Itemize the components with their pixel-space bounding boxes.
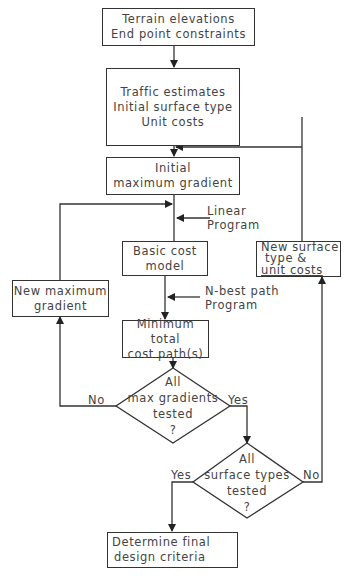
- arrow-gradients-yes: [230, 406, 247, 443]
- new-surface-box: New surface type & unit costs: [256, 241, 341, 277]
- basic-cost-line-2: model: [146, 259, 185, 274]
- initial-gradient-box: Initial maximum gradient: [106, 157, 240, 195]
- decision-surfaces-line-4: ?: [197, 499, 297, 515]
- min-cost-line-2: cost path(s): [128, 347, 204, 362]
- decision-gradients-line-1: All: [123, 374, 223, 390]
- linear-program-label: Linear Program: [207, 204, 260, 232]
- terrain-box: Terrain elevations End point constraints: [102, 8, 255, 46]
- traffic-line-3: Unit costs: [142, 115, 205, 130]
- decision-surfaces-line-1: All: [197, 451, 297, 467]
- decision-gradients-line-3: tested: [123, 406, 223, 422]
- terrain-line-1: Terrain elevations: [122, 12, 235, 27]
- basic-cost-line-1: Basic cost: [133, 244, 197, 259]
- initial-gradient-line-2: maximum gradient: [113, 176, 233, 191]
- linear-program-line-2: Program: [207, 218, 260, 232]
- new-gradient-box: New maximum gradient: [12, 280, 109, 317]
- traffic-line-1: Traffic estimates: [120, 85, 225, 100]
- initial-gradient-line-1: Initial: [155, 161, 191, 176]
- new-gradient-line-2: gradient: [34, 299, 87, 314]
- new-surface-line-3: unit costs: [261, 265, 323, 277]
- decision-surfaces-line-2: surface types: [197, 467, 297, 483]
- decision-surfaces-line-3: tested: [197, 483, 297, 499]
- final-box: Determine final design criteria: [107, 532, 238, 568]
- new-gradient-line-1: New maximum: [14, 284, 107, 299]
- traffic-box: Traffic estimates Initial surface type U…: [106, 68, 240, 146]
- gradients-no-label: No: [88, 393, 105, 407]
- basic-cost-box: Basic cost model: [122, 241, 208, 276]
- final-line-1: Determine final: [112, 535, 210, 550]
- terrain-line-2: End point constraints: [111, 27, 246, 42]
- min-cost-line-1: Minimum total: [123, 317, 208, 347]
- linear-program-line-1: Linear: [207, 204, 260, 218]
- decision-surfaces-text: All surface types tested ?: [197, 451, 297, 515]
- traffic-line-2: Initial surface type: [113, 100, 232, 115]
- nbest-program-label: N-best path Program: [205, 284, 279, 312]
- gradients-yes-label: Yes: [228, 393, 248, 407]
- min-cost-box: Minimum total cost path(s): [122, 320, 209, 358]
- decision-gradients-line-2: max gradients: [123, 390, 223, 406]
- decision-gradients-text: All max gradients tested ?: [123, 374, 223, 438]
- final-line-2: design criteria: [112, 550, 206, 565]
- surfaces-no-label: No: [303, 468, 320, 482]
- arrow-surfaces-no: [303, 277, 322, 482]
- decision-gradients-line-4: ?: [123, 422, 223, 438]
- surfaces-yes-label: Yes: [171, 468, 191, 482]
- arrow-surfaces-yes: [172, 482, 193, 531]
- nbest-program-line-2: Program: [205, 298, 279, 312]
- nbest-program-line-1: N-best path: [205, 284, 279, 298]
